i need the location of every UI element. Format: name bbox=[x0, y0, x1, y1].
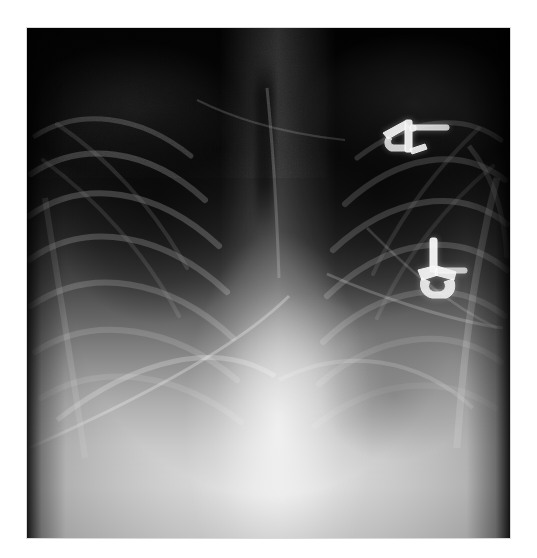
xray-image bbox=[27, 28, 510, 538]
page-root: Frontal chest radiograph showing dark up… bbox=[0, 0, 537, 558]
metallic-device-lower-icon bbox=[404, 236, 474, 304]
metallic-device-upper-icon bbox=[379, 111, 457, 163]
